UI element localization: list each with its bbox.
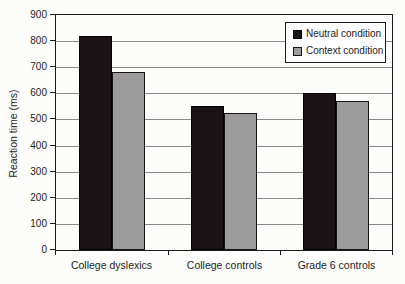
y-tick-mark-100 xyxy=(50,223,55,224)
x-tick-mark-1 xyxy=(168,251,169,255)
bar-neutral-1 xyxy=(79,36,112,250)
y-tick-label-600: 600 xyxy=(16,87,47,98)
y-tick-label-800: 800 xyxy=(16,35,47,46)
y-tick-label-100: 100 xyxy=(16,218,47,229)
y-tick-mark-400 xyxy=(50,145,55,146)
y-tick-mark-900 xyxy=(50,14,55,15)
y-tick-mark-0 xyxy=(50,249,55,250)
y-tick-mark-200 xyxy=(50,197,55,198)
y-tick-label-0: 0 xyxy=(16,244,47,255)
y-axis-title: Reaction time (ms) xyxy=(7,15,20,252)
x-tick-mark-3 xyxy=(392,251,393,255)
y-tick-label-300: 300 xyxy=(16,166,47,177)
legend-entry-context: Context condition xyxy=(293,45,385,57)
x-tick-mark-2 xyxy=(280,251,281,255)
y-tick-label-700: 700 xyxy=(16,61,47,72)
bar-neutral-3 xyxy=(303,93,336,250)
legend-label-neutral: Neutral condition xyxy=(306,28,381,40)
y-tick-label-200: 200 xyxy=(16,192,47,203)
category-label-2: College controls xyxy=(168,258,281,272)
bar-context-2 xyxy=(224,113,257,250)
category-label-1: College dyslexics xyxy=(55,258,168,272)
category-label-3: Grade 6 controls xyxy=(280,258,393,272)
legend-label-context: Context condition xyxy=(306,45,383,57)
neutral-series-swatch-icon xyxy=(293,30,302,39)
y-tick-mark-800 xyxy=(50,40,55,41)
bar-context-1 xyxy=(112,72,145,250)
bar-chart-figure: Reaction time (ms) 010020030040050060070… xyxy=(0,0,405,284)
y-tick-label-900: 900 xyxy=(16,9,47,20)
bar-neutral-2 xyxy=(191,106,224,250)
y-tick-mark-600 xyxy=(50,92,55,93)
y-tick-mark-500 xyxy=(50,118,55,119)
legend-entry-neutral: Neutral condition xyxy=(293,28,385,40)
context-series-swatch-icon xyxy=(293,47,302,56)
y-tick-mark-300 xyxy=(50,171,55,172)
y-tick-label-400: 400 xyxy=(16,140,47,151)
y-tick-mark-700 xyxy=(50,66,55,67)
legend: Neutral condition Context condition xyxy=(285,22,386,63)
bar-context-3 xyxy=(336,101,369,250)
y-tick-label-500: 500 xyxy=(16,113,47,124)
x-tick-mark-0 xyxy=(55,251,56,255)
